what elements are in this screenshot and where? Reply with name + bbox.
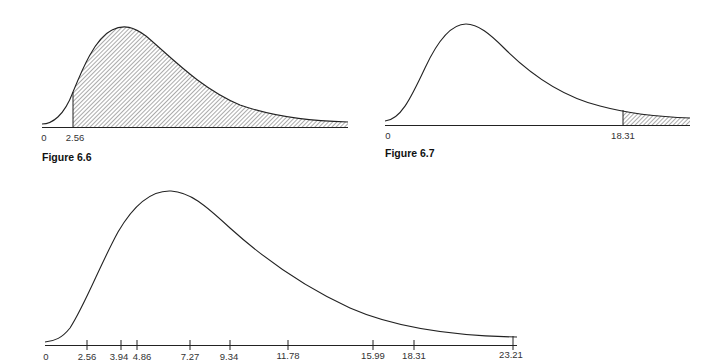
tick-label: 9.34 xyxy=(220,351,239,362)
density-curve xyxy=(45,191,517,342)
density-curve xyxy=(385,24,690,121)
figure-6-7-chart xyxy=(385,24,690,126)
tick-marks xyxy=(87,336,513,350)
tick-label: 18.31 xyxy=(402,350,426,361)
tick-label-2-56: 2.56 xyxy=(66,132,85,143)
tick-label-0: 0 xyxy=(41,132,46,143)
shaded-area xyxy=(73,27,348,127)
figure-6-6-chart xyxy=(42,27,348,128)
tick-label: 4.86 xyxy=(133,351,152,362)
figures-canvas xyxy=(0,0,723,363)
figure-caption: Figure 6.6 xyxy=(42,151,92,163)
tick-label-0: 0 xyxy=(385,130,390,141)
tick-label: 15.99 xyxy=(361,350,385,361)
tick-label: 23.21 xyxy=(499,349,523,360)
tick-label: 3.94 xyxy=(110,351,129,362)
tick-label-18-31: 18.31 xyxy=(611,130,635,141)
tick-label: 7.27 xyxy=(181,351,200,362)
tick-label: 11.78 xyxy=(276,350,299,361)
tick-label: 2.56 xyxy=(78,351,97,362)
bottom-figure-chart xyxy=(45,191,517,350)
tick-label: 0 xyxy=(43,351,48,362)
figure-caption: Figure 6.7 xyxy=(385,147,435,159)
